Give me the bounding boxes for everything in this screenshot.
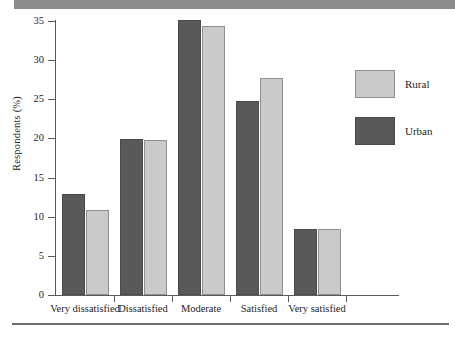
y-axis-tick-label: 20 [34, 131, 45, 144]
y-axis-tick: 10 [48, 217, 55, 218]
y-axis-tick: 20 [48, 138, 55, 139]
x-axis-line [55, 295, 399, 296]
y-axis-tick-label: 0 [39, 288, 44, 301]
y-axis-tick-label: 25 [34, 92, 45, 105]
legend-label-urban: Urban [405, 124, 433, 138]
legend-swatch-rural-icon [355, 70, 395, 98]
y-axis-tick: 30 [48, 60, 55, 61]
y-axis-tick: 0 [48, 295, 55, 296]
legend-item-rural: Rural [355, 70, 451, 104]
legend-swatch-urban-icon [355, 117, 395, 145]
plot-area [56, 21, 346, 295]
legend-label-rural: Rural [405, 77, 429, 91]
y-axis-tick-label: 35 [34, 14, 45, 27]
bar-urban [236, 101, 259, 295]
y-axis-tick-label: 5 [39, 249, 44, 262]
chart-legend: Rural Urban [355, 70, 451, 164]
bar-rural [202, 26, 225, 295]
y-axis-tick: 35 [48, 21, 55, 22]
bar-rural [86, 210, 109, 295]
y-axis-tick: 15 [48, 178, 55, 179]
y-axis-tick-label: 30 [34, 53, 45, 66]
bottom-horizontal-rule [12, 323, 449, 325]
y-axis-tick: 5 [48, 256, 55, 257]
bar-rural [144, 140, 167, 295]
y-axis-tick-label: 10 [34, 210, 45, 223]
bar-rural [260, 78, 283, 295]
bar-urban [120, 139, 143, 295]
bar-rural [318, 229, 341, 295]
bar-urban [178, 20, 201, 295]
bar-urban [62, 194, 85, 295]
top-horizontal-rule [14, 0, 455, 9]
figure-container: Respondents (%) 05101520253035 Very diss… [0, 0, 455, 338]
x-axis-category-label: Very satisfied [280, 302, 354, 315]
y-axis-tick: 25 [48, 99, 55, 100]
bar-urban [294, 229, 317, 295]
y-axis-tick-label: 15 [34, 171, 45, 184]
y-axis-title: Respondents (%) [11, 74, 22, 194]
legend-item-urban: Urban [355, 117, 451, 151]
